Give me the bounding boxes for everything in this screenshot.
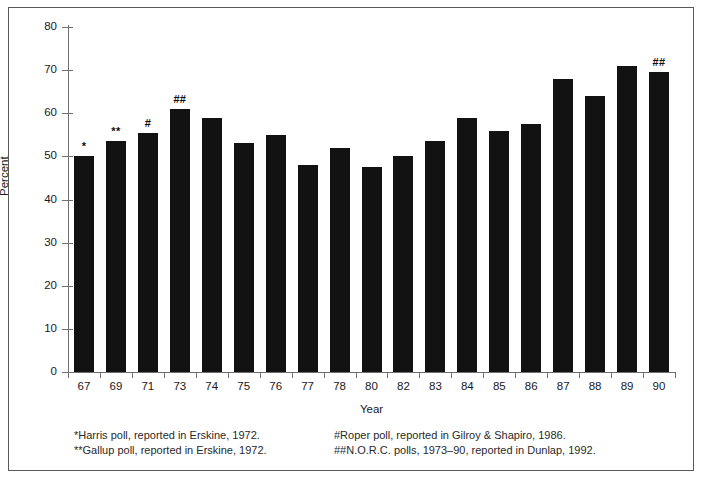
- x-tick-69: [100, 372, 101, 378]
- footnote-left-2: **Gallup poll, reported in Erskine, 1972…: [74, 443, 334, 458]
- bar-71: [138, 133, 158, 372]
- footnote-right-2: ##N.O.R.C. polls, 1973–90, reported in D…: [334, 443, 596, 458]
- bar-69: [106, 141, 126, 372]
- y-tick-label-10: 10: [17, 323, 57, 335]
- y-tick-label-60: 60: [17, 107, 57, 119]
- x-tick-end: [675, 372, 676, 378]
- x-tick-82: [387, 372, 388, 378]
- bar-87: [553, 79, 573, 372]
- x-tick-71: [132, 372, 133, 378]
- bar-77: [298, 165, 318, 372]
- bar-annotation-90: ##: [639, 57, 679, 68]
- x-tick-89: [611, 372, 612, 378]
- x-tick-80: [356, 372, 357, 378]
- bar-67: [74, 156, 94, 372]
- bar-annotation-73: ##: [160, 94, 200, 105]
- footnotes: *Harris poll, reported in Erskine, 1972.…: [74, 428, 674, 458]
- x-tick-85: [483, 372, 484, 378]
- y-axis-title: Percent: [0, 156, 10, 196]
- x-tick-76: [260, 372, 261, 378]
- bar-76: [266, 135, 286, 372]
- x-tick-label-90: 90: [639, 380, 679, 393]
- x-tick-78: [324, 372, 325, 378]
- bar-85: [489, 131, 509, 373]
- bar-annotation-67: *: [64, 141, 104, 152]
- figure-root: 01020304050607080 6769717374757677788082…: [0, 0, 703, 481]
- bar-89: [617, 66, 637, 372]
- x-tick-87: [547, 372, 548, 378]
- y-tick-label-80: 80: [17, 21, 57, 33]
- footnote-left-1: *Harris poll, reported in Erskine, 1972.: [74, 428, 334, 443]
- bar-82: [393, 156, 413, 372]
- x-tick-88: [579, 372, 580, 378]
- x-axis-line: [68, 372, 675, 373]
- bar-83: [425, 141, 445, 372]
- plot-area: ***#####: [68, 27, 675, 372]
- x-tick-77: [292, 372, 293, 378]
- x-tick-73: [164, 372, 165, 378]
- x-tick-90: [643, 372, 644, 378]
- bars-layer: ***#####: [68, 27, 675, 372]
- y-tick-label-0: 0: [17, 366, 57, 378]
- footnote-right-1: #Roper poll, reported in Gilroy & Shapir…: [334, 428, 566, 443]
- y-tick-label-30: 30: [17, 237, 57, 249]
- bar-90: [649, 72, 669, 372]
- bar-80: [362, 167, 382, 372]
- x-tick-83: [419, 372, 420, 378]
- x-tick-75: [228, 372, 229, 378]
- bar-74: [202, 118, 222, 372]
- y-tick-label-50: 50: [17, 150, 57, 162]
- bar-78: [330, 148, 350, 372]
- footnote-row: **Gallup poll, reported in Erskine, 1972…: [74, 443, 674, 458]
- bar-84: [457, 118, 477, 372]
- y-tick-label-70: 70: [17, 64, 57, 76]
- y-tick-label-40: 40: [17, 194, 57, 206]
- y-tick-label-20: 20: [17, 280, 57, 292]
- bar-annotation-71: #: [128, 118, 168, 129]
- x-tick-84: [451, 372, 452, 378]
- bar-75: [234, 143, 254, 372]
- x-tick-67: [68, 372, 69, 378]
- x-tick-86: [515, 372, 516, 378]
- footnote-row: *Harris poll, reported in Erskine, 1972.…: [74, 428, 674, 443]
- bar-88: [585, 96, 605, 372]
- x-axis-title: Year: [68, 403, 675, 415]
- bar-73: [170, 109, 190, 372]
- bar-86: [521, 124, 541, 372]
- x-tick-74: [196, 372, 197, 378]
